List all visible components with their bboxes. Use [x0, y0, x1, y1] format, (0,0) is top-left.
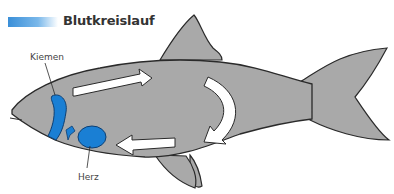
- tail-fin: [300, 48, 389, 140]
- fish-diagram: [0, 0, 394, 194]
- gills-label: Kiemen: [30, 52, 64, 62]
- heart-label: Herz: [78, 172, 99, 182]
- dorsal-fin: [160, 15, 222, 60]
- heart-organ: [78, 126, 106, 148]
